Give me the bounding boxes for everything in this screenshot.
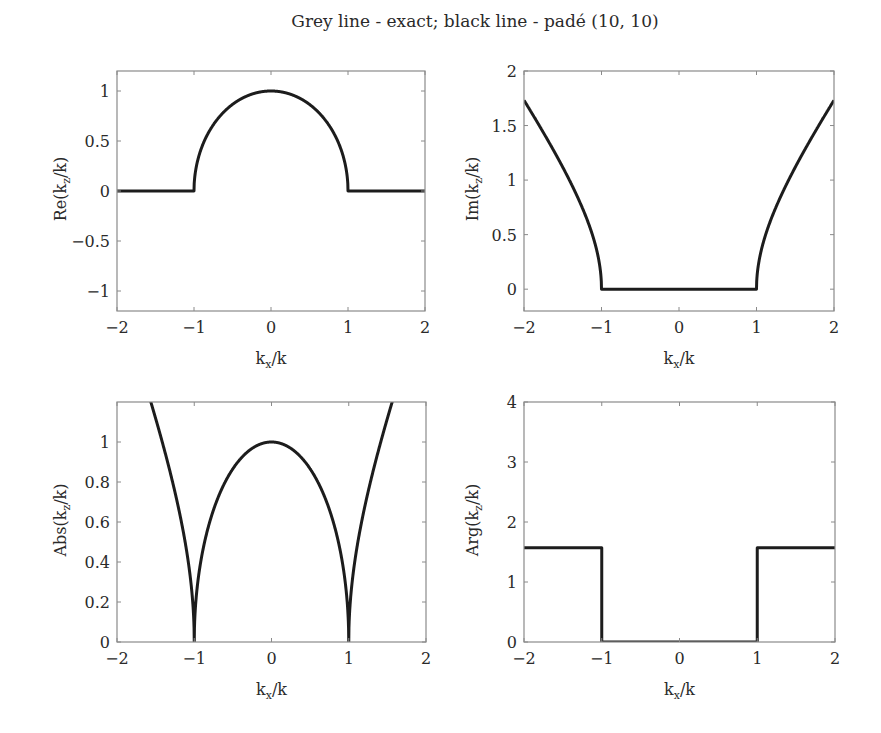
x-axis-label: kx/k (255, 349, 286, 371)
axes-frame (524, 71, 834, 311)
x-tick-label: 2 (830, 649, 840, 668)
y-tick-label: 0.2 (85, 593, 110, 612)
subplot-arg: −2−101201234kx/kArg(kz/k) (463, 393, 840, 702)
x-tick-label: 2 (420, 318, 430, 337)
y-tick-label: 0.5 (85, 132, 110, 151)
x-tick-label: 0 (266, 649, 276, 668)
x-tick-label: 0 (266, 318, 276, 337)
y-tick-label: 0 (100, 633, 110, 652)
y-tick-label: 0 (507, 280, 517, 299)
y-axis-label: Im(kz/k) (463, 157, 485, 222)
axes-frame (524, 402, 835, 642)
y-tick-label: 0.6 (85, 513, 110, 532)
y-tick-label: 0 (507, 633, 517, 652)
x-tick-label: −1 (590, 318, 614, 337)
y-axis-label: Abs(kz/k) (51, 483, 73, 557)
data-line-arg (524, 548, 835, 642)
x-tick-label: 0 (674, 318, 684, 337)
y-tick-label: 1 (100, 82, 110, 101)
y-tick-label: 1 (507, 171, 517, 190)
y-tick-label: 0.8 (85, 473, 110, 492)
x-tick-label: −1 (182, 649, 206, 668)
y-tick-label: 1 (100, 433, 110, 452)
x-axis-label: kx/k (663, 349, 694, 371)
data-line-im (524, 100, 834, 289)
x-axis-label: kx/k (664, 680, 695, 702)
y-tick-label: 0.4 (85, 553, 110, 572)
y-tick-label: 1.5 (492, 117, 517, 136)
x-tick-label: −2 (512, 318, 536, 337)
x-tick-label: 1 (752, 649, 762, 668)
x-tick-label: 2 (421, 649, 431, 668)
x-tick-label: 1 (751, 318, 761, 337)
y-axis-label: Re(kz/k) (51, 157, 73, 222)
y-tick-label: −1 (86, 282, 110, 301)
y-tick-label: 4 (507, 393, 517, 412)
x-tick-label: 1 (344, 649, 354, 668)
subplot-re: −2−1012−1−0.500.51kx/kRe(kz/k) (51, 71, 430, 371)
y-tick-label: 0.5 (492, 226, 517, 245)
subplot-abs: −2−101200.20.40.60.81kx/kAbs(kz/k) (51, 342, 431, 702)
x-tick-label: −1 (182, 318, 206, 337)
data-line-re (117, 91, 425, 191)
figure: Grey line - exact; black line - padé (10… (0, 0, 881, 733)
x-tick-label: 0 (674, 649, 684, 668)
y-tick-label: 2 (507, 62, 517, 81)
data-line-abs (117, 342, 426, 642)
subplot-im: −2−101200.511.52kx/kIm(kz/k) (463, 62, 839, 371)
y-tick-label: −0.5 (71, 232, 110, 251)
x-tick-label: −2 (105, 318, 129, 337)
axes-frame (117, 402, 426, 642)
x-tick-label: 1 (343, 318, 353, 337)
y-tick-label: 3 (507, 453, 517, 472)
y-tick-label: 0 (100, 182, 110, 201)
x-axis-label: kx/k (256, 680, 287, 702)
y-tick-label: 2 (507, 513, 517, 532)
x-tick-label: −1 (590, 649, 614, 668)
y-tick-label: 1 (507, 573, 517, 592)
x-tick-label: 2 (829, 318, 839, 337)
y-axis-label: Arg(kz/k) (463, 484, 485, 558)
figure-title: Grey line - exact; black line - padé (10… (291, 11, 658, 31)
